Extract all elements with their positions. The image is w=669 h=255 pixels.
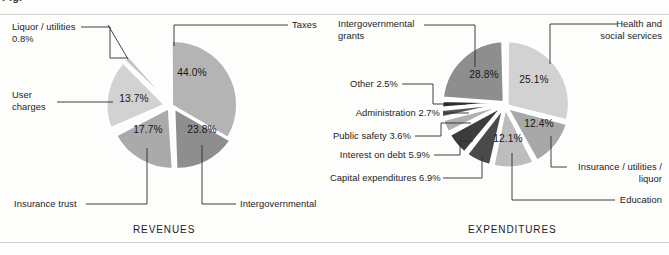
revenues-chart-panel: 44.0% 23.8% 17.7% 13.7% Taxes Liquor / u… bbox=[0, 0, 340, 255]
slice-value-user-charges: 13.7% bbox=[119, 93, 148, 104]
label-insurance-trust: Insurance trust bbox=[14, 198, 77, 210]
label-intergovernmental: Intergovernmental bbox=[240, 198, 316, 210]
label-other: Other 2.5% bbox=[330, 78, 398, 90]
label-liquor-utilities: Liquor / utilities 0.8% bbox=[12, 21, 75, 45]
expenditures-chart-panel: 28.8% 25.1% 12.4% 12.1% Intergovernmenta… bbox=[330, 0, 669, 255]
figure-root: Fig. 44.0% 23.8% 17.7% 13.7% bbox=[0, 0, 669, 255]
label-public-safety: Public safety 3.6% bbox=[330, 130, 411, 142]
label-intergovernmental-grants: Intergovernmental grants bbox=[338, 18, 414, 42]
slice-value-taxes: 44.0% bbox=[177, 67, 206, 78]
revenues-panel-title: REVENUES bbox=[133, 224, 195, 235]
slice-value-education: 12.1% bbox=[493, 133, 522, 144]
label-taxes: Taxes bbox=[292, 19, 317, 31]
label-health-social-services: Health and social services bbox=[536, 18, 662, 42]
label-interest-on-debt: Interest on debt 5.9% bbox=[330, 149, 430, 161]
slice-value-insurance-trust: 17.7% bbox=[133, 124, 162, 135]
bottom-divider-rule bbox=[0, 242, 669, 243]
slice-value-intergovernmental-grants: 28.8% bbox=[469, 69, 498, 80]
label-capital-expenditures: Capital expenditures 6.9% bbox=[330, 172, 439, 184]
leader-line-liquor-utilities-2 bbox=[81, 27, 128, 58]
label-administration: Administration 2.7% bbox=[330, 107, 440, 119]
leader-line-liquor-utilities bbox=[108, 25, 128, 59]
slice-value-intergovernmental: 23.8% bbox=[187, 124, 216, 135]
revenues-pie-slices bbox=[106, 41, 237, 169]
label-insurance-utilities-liquor: Insurance / utilities / liquor bbox=[540, 161, 662, 185]
label-education: Education bbox=[580, 194, 662, 206]
slice-value-health-social-services: 25.1% bbox=[519, 74, 548, 85]
expenditures-panel-title: EXPENDITURES bbox=[468, 224, 557, 235]
slice-value-insurance-utilities-liquor: 12.4% bbox=[524, 118, 553, 129]
label-user-charges: User charges bbox=[12, 89, 46, 113]
